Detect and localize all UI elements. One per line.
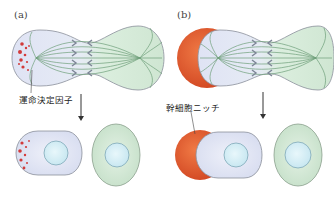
daughter-cell-a-differentiating	[92, 124, 140, 186]
daughter-cell-b-differentiating	[274, 124, 322, 186]
nucleus	[285, 142, 311, 168]
callout-line-b	[191, 112, 195, 134]
nucleus	[44, 141, 68, 165]
division-arrow-a	[78, 94, 84, 121]
panel-a	[12, 26, 164, 186]
daughter-cell-a-stem	[16, 131, 82, 175]
nucleus	[224, 143, 248, 167]
fate-determinant-label: 運命決定因子	[19, 93, 73, 105]
panel-label-a: (a)	[14, 9, 28, 20]
panel-label-b: (b)	[177, 9, 191, 20]
stem-cell-niche-label: 幹細胞ニッチ	[166, 101, 220, 113]
division-arrow-b	[260, 92, 266, 119]
daughter-cell-b-stem	[175, 130, 262, 180]
nucleus	[105, 143, 129, 167]
